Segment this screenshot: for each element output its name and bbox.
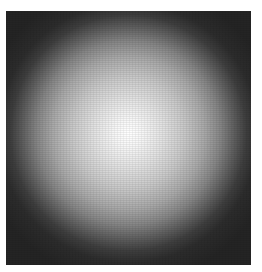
grain-overlay [6, 11, 251, 265]
image-canvas [0, 0, 262, 272]
dark-square-frame [6, 11, 251, 265]
